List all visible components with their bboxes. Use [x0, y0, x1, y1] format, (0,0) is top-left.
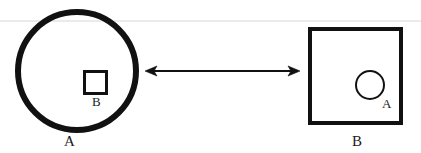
label-outer-circle-a: A: [64, 134, 75, 149]
diagram-canvas: [0, 0, 421, 153]
label-inner-circle-a: A: [382, 97, 391, 110]
label-inner-square-b: B: [92, 95, 101, 108]
diagram-figure: A B B A: [0, 0, 421, 153]
label-outer-square-b: B: [352, 134, 362, 149]
inner-square-b: [85, 72, 107, 94]
outer-circle-a: [18, 12, 136, 130]
double-arrow: [145, 66, 300, 76]
